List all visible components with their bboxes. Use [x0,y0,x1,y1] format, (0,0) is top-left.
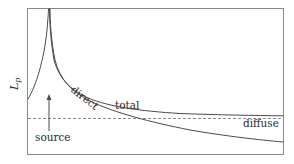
diffuse-label: diffuse [243,117,279,129]
source-arrow-head [47,94,52,100]
source-label: source [35,131,71,143]
sound-level-diagram: Lp source direct total diffuse [0,0,294,164]
y-axis-label: Lp [8,78,22,91]
direct-label: direct [69,83,102,112]
peak-left-branch [28,9,49,100]
total-label: total [115,99,140,111]
